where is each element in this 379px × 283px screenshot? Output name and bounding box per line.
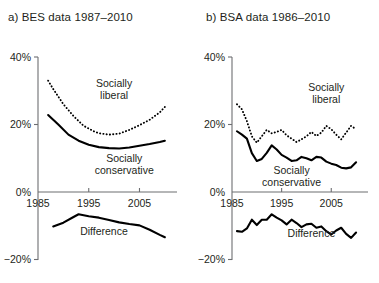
svg-text:−20%: −20% [4, 253, 31, 265]
svg-text:20%: 20% [10, 118, 31, 130]
svg-text:40%: 40% [10, 51, 31, 63]
svg-text:Difference: Difference [80, 225, 128, 237]
svg-text:0%: 0% [210, 186, 225, 198]
figure-two-panel-chart: a) BES data 1987–2010 −20%0%20%40%198519… [0, 0, 379, 283]
svg-text:Sociallyconservative: Sociallyconservative [262, 164, 321, 188]
svg-text:1995: 1995 [270, 197, 294, 209]
svg-text:2005: 2005 [320, 197, 344, 209]
svg-text:20%: 20% [204, 118, 225, 130]
chart-panel-a: a) BES data 1987–2010 −20%0%20%40%198519… [0, 0, 189, 283]
svg-text:−20%: −20% [198, 253, 225, 265]
svg-text:1995: 1995 [77, 197, 101, 209]
svg-text:1985: 1985 [220, 197, 244, 209]
svg-text:Difference: Difference [288, 227, 336, 239]
svg-text:1985: 1985 [26, 197, 50, 209]
panel-b-plot: −20%0%20%40%198519952005SociallyliberalS… [190, 0, 379, 283]
svg-text:2005: 2005 [128, 197, 152, 209]
svg-text:Sociallyliberal: Sociallyliberal [308, 81, 345, 105]
svg-text:Sociallyconservative: Sociallyconservative [95, 152, 154, 176]
svg-text:0%: 0% [16, 186, 31, 198]
svg-text:Sociallyliberal: Sociallyliberal [96, 77, 133, 101]
svg-text:40%: 40% [204, 51, 225, 63]
panel-a-plot: −20%0%20%40%198519952005SociallyliberalS… [0, 0, 189, 283]
chart-panel-b: b) BSA data 1986–2010 −20%0%20%40%198519… [190, 0, 379, 283]
